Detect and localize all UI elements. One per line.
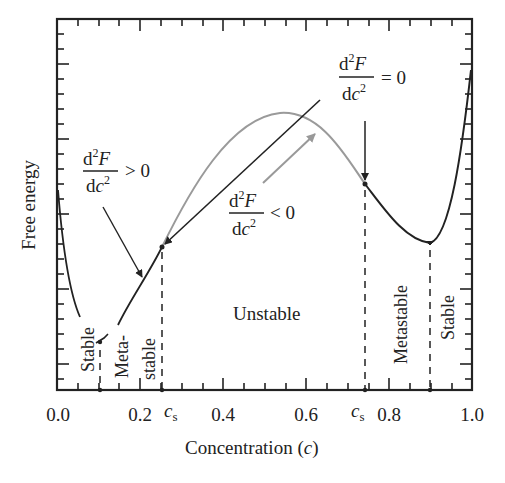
anno-relation: = 0 (381, 67, 406, 88)
cs-label-left: cs (164, 400, 178, 424)
region-label-meta: Meta- (112, 335, 132, 378)
y-axis-ticks-right (460, 34, 472, 379)
cs-label-right: cs (351, 400, 365, 424)
svg-text:0.0: 0.0 (46, 404, 70, 425)
curve-stable-left (58, 190, 80, 317)
x-tick-labels: 0.0 0.2 0.4 0.6 0.8 1.0 (46, 404, 484, 425)
anno-num: d2F (83, 146, 111, 169)
region-label-stable-left: Stable (78, 327, 98, 372)
annotation-positive-curvature: d2F dc2 > 0 (83, 146, 150, 196)
arrow-positive-curvature (103, 207, 142, 277)
right-spinodal-point (363, 182, 368, 187)
left-spinodal-point (160, 245, 165, 250)
curve-metastable-right (365, 184, 430, 243)
anno-relation: < 0 (270, 202, 295, 223)
region-label-stable-part: stable (139, 338, 159, 380)
annotation-inflection: d2F dc2 = 0 (339, 51, 406, 104)
svg-text:0.4: 0.4 (211, 404, 235, 425)
anno-num: d2F (339, 51, 367, 74)
svg-text:0.8: 0.8 (377, 404, 401, 425)
anno-den: dc2 (342, 81, 366, 104)
annotation-negative-curvature: d2F dc2 < 0 (229, 188, 295, 239)
curve-unstable (162, 113, 365, 247)
anno-relation: > 0 (125, 160, 150, 181)
anno-den: dc2 (232, 216, 256, 239)
region-label-stable-right: Stable (438, 295, 458, 340)
y-axis-title: Free energy (18, 160, 39, 250)
x-axis-ticks-top (78, 19, 452, 31)
x-axis-title: Concentration (c) (185, 437, 318, 459)
curve-stable-right (430, 70, 471, 243)
free-energy-chart: d2F dc2 > 0 d2F dc2 < 0 d2F dc2 = 0 Stab… (0, 0, 505, 483)
x-axis-ticks-bottom (57, 378, 452, 390)
region-label-unstable: Unstable (233, 303, 301, 324)
region-label-metastable-right: Metastable (391, 285, 411, 364)
anno-num: d2F (229, 188, 257, 211)
svg-text:0.6: 0.6 (294, 404, 318, 425)
svg-text:1.0: 1.0 (460, 404, 484, 425)
curve-metastable-left (118, 247, 162, 325)
anno-den: dc2 (86, 173, 110, 196)
svg-text:0.2: 0.2 (128, 404, 152, 425)
left-minimum-point (98, 340, 102, 344)
arrow-negative-curvature (263, 134, 315, 183)
